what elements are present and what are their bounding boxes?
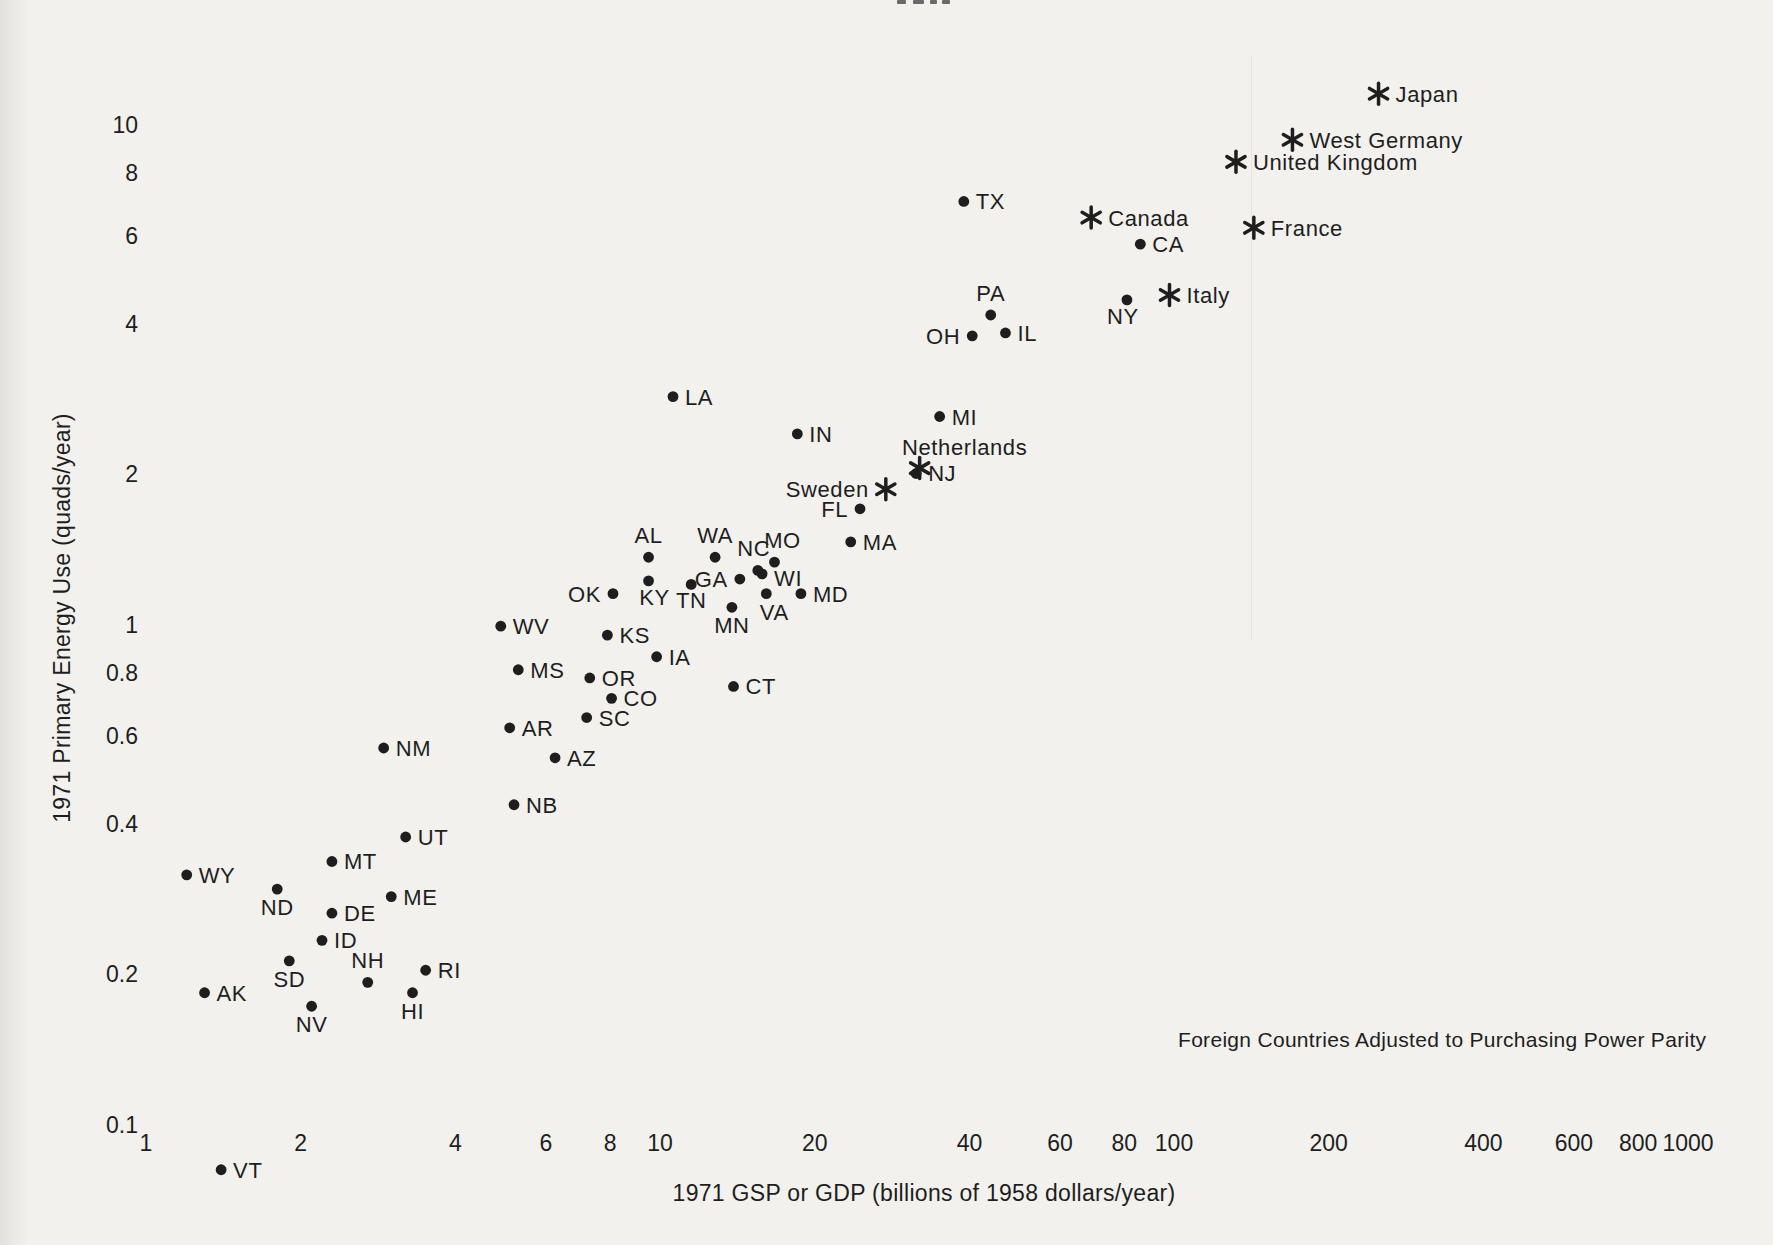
point-label-WY: WY bbox=[199, 863, 236, 888]
y-tick-0.1: 0.1 bbox=[106, 1112, 138, 1138]
y-tick-4: 4 bbox=[125, 311, 138, 337]
y-tick-0.4: 0.4 bbox=[106, 811, 138, 837]
point-label-TN: TN bbox=[676, 588, 707, 613]
ppp-annotation: Foreign Countries Adjusted to Purchasing… bbox=[1178, 1028, 1706, 1052]
data-point-VA bbox=[761, 588, 772, 599]
data-point-Italy bbox=[1160, 284, 1178, 305]
point-label-VA: VA bbox=[760, 600, 789, 625]
data-point-WI bbox=[757, 568, 768, 579]
data-point-DE bbox=[327, 908, 338, 919]
point-label-Canada: Canada bbox=[1108, 206, 1189, 231]
data-point-UT bbox=[400, 832, 411, 843]
point-label-KS: KS bbox=[619, 623, 650, 648]
y-tick-8: 8 bbox=[125, 160, 138, 186]
point-label-KY: KY bbox=[639, 585, 670, 610]
data-point-AZ bbox=[550, 752, 561, 763]
data-point-MT bbox=[327, 856, 338, 867]
point-label-WA: WA bbox=[697, 523, 733, 548]
data-point-RI bbox=[420, 965, 431, 976]
x-tick-2: 2 bbox=[294, 1130, 307, 1156]
scan-crease bbox=[1251, 55, 1252, 640]
point-label-MN: MN bbox=[714, 613, 749, 638]
point-label-AR: AR bbox=[522, 716, 554, 741]
header-fragment-mark bbox=[897, 0, 906, 4]
point-label-OK: OK bbox=[568, 582, 601, 607]
data-point-NV bbox=[306, 1001, 317, 1012]
point-label-HI: HI bbox=[401, 999, 424, 1024]
point-label-MD: MD bbox=[813, 582, 848, 607]
data-point-Japan bbox=[1369, 83, 1387, 104]
point-label-ND: ND bbox=[261, 895, 294, 920]
data-point-IA bbox=[651, 651, 662, 662]
data-point-WA bbox=[710, 552, 721, 563]
point-label-DE: DE bbox=[344, 901, 376, 926]
data-point-AL bbox=[643, 552, 654, 563]
data-point-AR bbox=[504, 722, 515, 733]
scanned-scatter-plot-page: 1246810204060801002004006008001000108642… bbox=[0, 0, 1773, 1245]
data-point-France bbox=[1245, 217, 1263, 238]
x-tick-8: 8 bbox=[604, 1130, 617, 1156]
data-point-MA bbox=[845, 536, 856, 547]
point-label-IA: IA bbox=[669, 645, 691, 670]
scatter-plot: 1246810204060801002004006008001000108642… bbox=[0, 0, 1773, 1245]
y-tick-1: 1 bbox=[125, 612, 138, 638]
x-tick-80: 80 bbox=[1111, 1130, 1137, 1156]
point-label-PA: PA bbox=[976, 281, 1005, 306]
data-point-LA bbox=[668, 391, 679, 402]
x-tick-600: 600 bbox=[1555, 1130, 1593, 1156]
point-label-IN: IN bbox=[809, 422, 832, 447]
point-label-UT: UT bbox=[418, 825, 449, 850]
point-label-ME: ME bbox=[403, 885, 437, 910]
y-tick-0.2: 0.2 bbox=[106, 961, 138, 987]
data-point-United Kingdom bbox=[1227, 151, 1245, 172]
x-tick-1000: 1000 bbox=[1662, 1130, 1713, 1156]
data-point-PA bbox=[985, 310, 996, 321]
y-tick-0.6: 0.6 bbox=[106, 723, 138, 749]
data-point-CA bbox=[1135, 239, 1146, 250]
point-label-SC: SC bbox=[599, 706, 631, 731]
data-point-GA bbox=[734, 574, 745, 585]
point-label-MO: MO bbox=[764, 528, 801, 553]
point-label-NJ: NJ bbox=[928, 461, 956, 486]
data-point-FL bbox=[855, 503, 866, 514]
x-tick-400: 400 bbox=[1464, 1130, 1502, 1156]
data-point-OH bbox=[967, 330, 978, 341]
data-point-NM bbox=[378, 743, 389, 754]
point-label-AL: AL bbox=[634, 523, 662, 548]
data-point-IN bbox=[792, 428, 803, 439]
point-label-MS: MS bbox=[530, 658, 564, 683]
data-point-MD bbox=[796, 588, 807, 599]
point-label-Italy: Italy bbox=[1186, 283, 1229, 308]
x-tick-6: 6 bbox=[540, 1130, 553, 1156]
point-label-NV: NV bbox=[296, 1012, 328, 1037]
data-point-ID bbox=[317, 935, 328, 946]
data-point-VT bbox=[216, 1164, 227, 1175]
y-tick-6: 6 bbox=[125, 223, 138, 249]
point-label-Sweden: Sweden bbox=[786, 477, 869, 502]
data-point-CO bbox=[606, 693, 617, 704]
data-point-IL bbox=[1000, 328, 1011, 339]
point-label-MA: MA bbox=[863, 530, 897, 555]
data-point-SD bbox=[284, 955, 295, 966]
point-label-OH: OH bbox=[926, 324, 960, 349]
data-point-HI bbox=[407, 987, 418, 998]
x-tick-40: 40 bbox=[957, 1130, 983, 1156]
point-label-NY: NY bbox=[1107, 304, 1139, 329]
point-label-Netherlands: Netherlands bbox=[902, 435, 1027, 460]
x-tick-200: 200 bbox=[1310, 1130, 1348, 1156]
point-label-WI: WI bbox=[774, 566, 802, 591]
data-point-WY bbox=[181, 869, 192, 880]
data-point-West Germany bbox=[1283, 129, 1301, 150]
point-label-IL: IL bbox=[1017, 321, 1037, 346]
point-label-LA: LA bbox=[685, 385, 713, 410]
y-tick-0.8: 0.8 bbox=[106, 660, 138, 686]
point-label-NH: NH bbox=[351, 948, 384, 973]
data-point-AK bbox=[199, 987, 210, 998]
point-label-SD: SD bbox=[273, 967, 305, 992]
point-label-MT: MT bbox=[344, 849, 377, 874]
x-tick-800: 800 bbox=[1619, 1130, 1657, 1156]
x-tick-20: 20 bbox=[802, 1130, 828, 1156]
point-label-Japan: Japan bbox=[1396, 82, 1459, 107]
point-label-CT: CT bbox=[746, 674, 777, 699]
y-axis-title: 1971 Primary Energy Use (quads/year) bbox=[49, 413, 76, 823]
